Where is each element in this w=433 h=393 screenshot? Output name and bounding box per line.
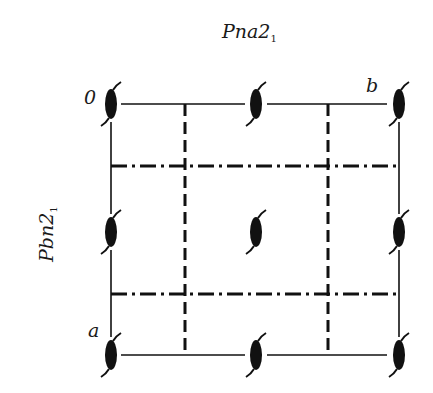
title-top: Pna21 <box>221 20 277 44</box>
screw-axis-icon <box>246 82 266 126</box>
a-axis-label: a <box>88 319 99 341</box>
screw-axis-symbols <box>101 82 409 377</box>
origin-label: 0 <box>84 86 96 108</box>
screw-axis-icon <box>389 210 409 254</box>
screw-axis-icon <box>389 82 409 126</box>
screw-axis-icon <box>101 210 121 254</box>
screw-axis-icon <box>246 210 266 254</box>
screw-axis-icon <box>246 333 266 377</box>
b-axis-label: b <box>366 74 378 96</box>
title-side: Pbn21 <box>35 206 59 263</box>
screw-axis-icon <box>389 333 409 377</box>
space-group-diagram: Pna21 Pbn21 0 b a <box>0 0 433 393</box>
screw-axis-icon <box>101 82 121 126</box>
screw-axis-icon <box>101 333 121 377</box>
